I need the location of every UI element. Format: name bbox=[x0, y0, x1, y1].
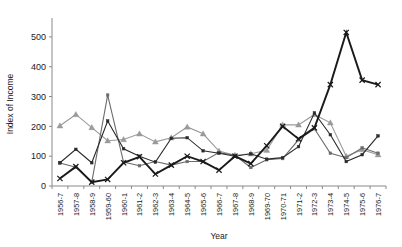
data-point-marker bbox=[59, 161, 62, 164]
data-point-marker bbox=[90, 161, 93, 164]
data-point-marker bbox=[345, 160, 348, 163]
data-point-marker bbox=[218, 152, 221, 155]
data-point-marker bbox=[75, 148, 78, 151]
data-point-marker bbox=[57, 123, 63, 128]
x-tick-label: 1962-3 bbox=[151, 193, 160, 216]
x-tick-label: 1971-2 bbox=[295, 193, 304, 216]
data-point-marker bbox=[329, 152, 332, 155]
x-tick-label: 1968-9 bbox=[247, 193, 256, 216]
x-tick-label: 1957-8 bbox=[72, 193, 81, 216]
x-tick-label: 1965-6 bbox=[199, 193, 208, 216]
y-tick-label: 500 bbox=[31, 32, 46, 42]
x-tick-label: 1974-5 bbox=[342, 193, 351, 216]
x-tick-label: 1973-4 bbox=[326, 193, 335, 216]
data-point-marker bbox=[154, 161, 157, 164]
data-point-marker bbox=[184, 124, 190, 129]
y-tick-label: 400 bbox=[31, 62, 46, 72]
y-axis-title: Index of Income bbox=[5, 73, 15, 134]
y-tick-label: 100 bbox=[31, 151, 46, 161]
data-point-marker bbox=[138, 164, 141, 167]
series-line-series-1 bbox=[60, 32, 378, 182]
x-tick-label: 1963-4 bbox=[167, 193, 176, 216]
x-tick-label: 1970-71 bbox=[279, 193, 288, 220]
data-point-marker bbox=[265, 158, 268, 161]
data-point-marker bbox=[106, 94, 109, 97]
line-chart: 0100200300400500Index of Income1956-7195… bbox=[0, 0, 402, 247]
chart-canvas: 0100200300400500Index of Income1956-7195… bbox=[0, 0, 402, 247]
data-point-marker bbox=[170, 137, 173, 140]
x-tick-label: 1958-9 bbox=[88, 193, 97, 216]
data-point-marker bbox=[281, 156, 284, 159]
x-tick-label: 1956-7 bbox=[56, 193, 65, 216]
data-point-marker bbox=[106, 120, 109, 123]
data-point-marker bbox=[377, 135, 380, 138]
data-point-marker bbox=[297, 145, 300, 148]
y-tick-label: 0 bbox=[41, 181, 46, 191]
data-point-marker bbox=[345, 156, 348, 159]
x-tick-label: 1967-8 bbox=[231, 193, 240, 216]
x-tick-label: 1969-70 bbox=[263, 193, 272, 220]
data-point-marker bbox=[122, 147, 125, 150]
data-point-marker bbox=[202, 150, 205, 153]
data-point-marker bbox=[377, 152, 380, 155]
data-point-marker bbox=[186, 160, 189, 163]
y-tick-label: 200 bbox=[31, 122, 46, 132]
data-point-marker bbox=[361, 147, 364, 150]
series-group-series-2 bbox=[59, 112, 380, 164]
data-point-marker bbox=[57, 176, 62, 181]
data-point-marker bbox=[327, 120, 333, 125]
x-tick-label: 1966-7 bbox=[215, 193, 224, 216]
x-tick-label: 1960-1 bbox=[120, 193, 129, 216]
data-point-marker bbox=[250, 152, 253, 155]
x-tick-label: 1976-7 bbox=[374, 193, 383, 216]
data-point-marker bbox=[186, 136, 189, 139]
data-point-marker bbox=[136, 131, 142, 136]
x-tick-label: 1972-3 bbox=[310, 193, 319, 216]
data-point-marker bbox=[329, 133, 332, 136]
data-point-marker bbox=[250, 166, 253, 169]
x-tick-label: 1964-5 bbox=[183, 193, 192, 216]
x-tick-label: 1959-60 bbox=[104, 193, 113, 220]
y-tick-label: 300 bbox=[31, 92, 46, 102]
data-point-marker bbox=[73, 111, 79, 116]
x-tick-label: 1975-6 bbox=[358, 193, 367, 216]
x-tick-label: 1961-2 bbox=[135, 193, 144, 216]
data-point-marker bbox=[361, 153, 364, 156]
data-point-marker bbox=[313, 112, 316, 115]
x-axis-title: Year bbox=[210, 231, 227, 241]
